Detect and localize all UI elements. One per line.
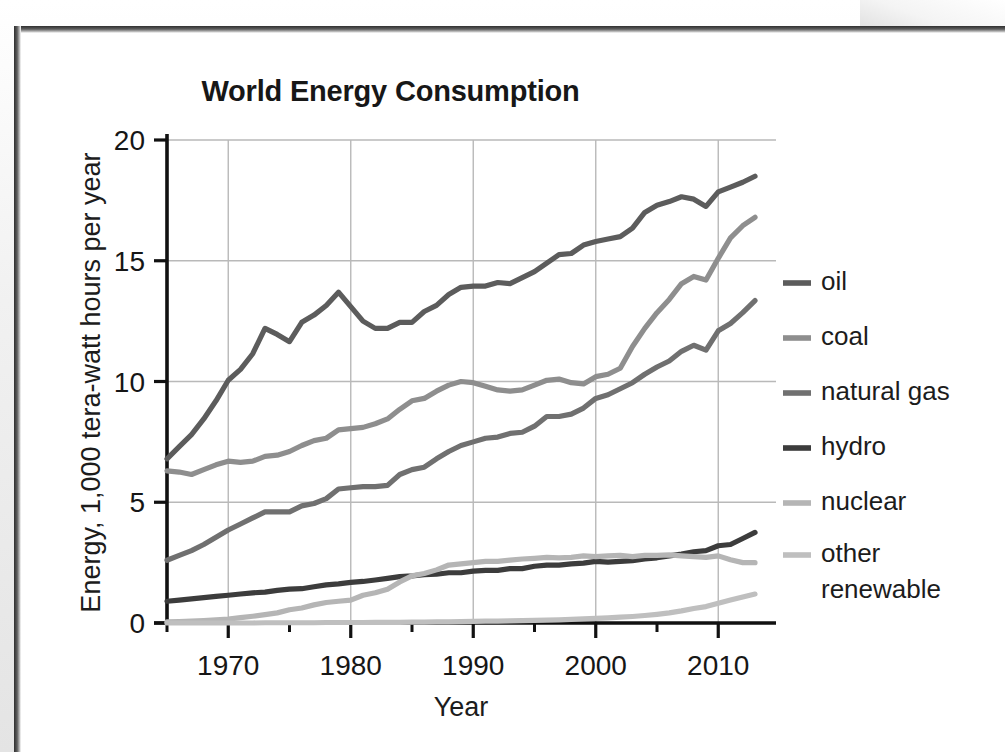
energy-consumption-chart: World Energy Consumption Energy, 1,000 t… <box>21 33 1005 752</box>
series-line-hydro <box>167 532 755 601</box>
series-line-natural-gas <box>167 301 755 561</box>
card-left-edge-shadow <box>14 26 21 752</box>
x-tick-label: 1970 <box>197 650 259 681</box>
y-tick-label: 15 <box>114 246 145 277</box>
legend-label-coal[interactable]: coal <box>821 321 869 351</box>
legend-label-nuclear[interactable]: nuclear <box>821 486 907 516</box>
page-corner-highlight <box>860 0 1005 26</box>
y-tick-label: 10 <box>114 367 145 398</box>
chart-legend: oilcoalnatural gashydronuclearotherrenew… <box>783 266 950 604</box>
y-tick-marks <box>154 140 167 623</box>
data-series <box>167 176 755 623</box>
x-tick-label: 2010 <box>687 650 749 681</box>
card-top-edge-shadow <box>14 26 1005 33</box>
y-tick-labels: 05101520 <box>114 125 145 639</box>
y-tick-label: 20 <box>114 125 145 156</box>
legend-label-other[interactable]: other <box>821 538 881 568</box>
legend-label-oil[interactable]: oil <box>821 266 847 296</box>
series-line-other-renewable <box>167 594 755 623</box>
series-line-oil <box>167 176 755 459</box>
legend-label-natural-gas[interactable]: natural gas <box>821 376 950 406</box>
x-tick-label: 2000 <box>565 650 627 681</box>
x-tick-label: 1980 <box>320 650 382 681</box>
y-tick-label: 0 <box>129 608 145 639</box>
plot-area: 05101520 19701980199020002010 oilcoalnat… <box>21 33 1005 752</box>
page-background: World Energy Consumption Energy, 1,000 t… <box>0 0 1005 752</box>
legend-label-hydro[interactable]: hydro <box>821 431 886 461</box>
x-tick-label: 1990 <box>442 650 504 681</box>
legend-label-renewable[interactable]: renewable <box>821 574 941 604</box>
y-tick-label: 5 <box>129 487 145 518</box>
x-tick-labels: 19701980199020002010 <box>197 650 749 681</box>
axis-lines <box>154 134 776 623</box>
